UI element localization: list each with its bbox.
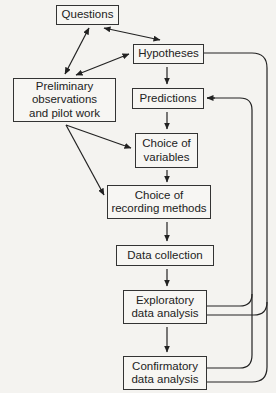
node-exploratory-data-analysis: Exploratory data analysis bbox=[123, 290, 207, 324]
node-recording-label: Choice of recording methods bbox=[111, 189, 206, 216]
node-predictions: Predictions bbox=[132, 88, 204, 109]
feedback-exploratory-hypotheses bbox=[207, 302, 267, 315]
node-collection-label: Data collection bbox=[127, 249, 202, 263]
node-exploratory-label: Exploratory data analysis bbox=[131, 294, 198, 321]
feedback-loop-hypotheses bbox=[204, 53, 267, 382]
node-confirmatory-label: Confirmatory data analysis bbox=[131, 360, 198, 387]
node-preliminary: Preliminary observations and pilot work bbox=[13, 78, 116, 122]
node-hypotheses-label: Hypotheses bbox=[138, 47, 199, 61]
node-hypotheses: Hypotheses bbox=[133, 44, 204, 64]
node-choice-of-recording-methods: Choice of recording methods bbox=[107, 185, 211, 219]
edge-preliminary-variables bbox=[66, 125, 131, 148]
edge-preliminary-recording bbox=[66, 125, 104, 195]
feedback-exploratory-predictions bbox=[207, 294, 252, 306]
node-data-collection: Data collection bbox=[116, 245, 214, 266]
node-predictions-label: Predictions bbox=[140, 92, 197, 106]
feedback-loop-predictions bbox=[207, 98, 252, 368]
edge-questions-hypotheses bbox=[104, 28, 160, 40]
node-questions: Questions bbox=[56, 5, 119, 25]
node-questions-label: Questions bbox=[62, 8, 114, 22]
edge-questions-preliminary bbox=[65, 28, 89, 74]
node-choice-of-variables: Choice of variables bbox=[135, 133, 198, 168]
node-variables-label: Choice of variables bbox=[142, 137, 191, 164]
node-preliminary-label: Preliminary observations and pilot work bbox=[29, 80, 100, 121]
node-confirmatory-data-analysis: Confirmatory data analysis bbox=[123, 356, 207, 390]
edge-hypotheses-preliminary bbox=[76, 54, 129, 75]
